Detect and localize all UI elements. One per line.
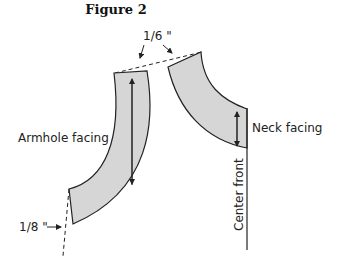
pattern-diagram: 1/6 " 1/8 " Armhole facing Neck facing C… (0, 0, 338, 280)
top-left-pointer-arrow (140, 45, 144, 58)
armhole-facing-piece (69, 71, 150, 224)
bottom-measure-label: 1/8 " (19, 220, 48, 234)
top-right-pointer-arrow (163, 45, 172, 53)
neck-facing-label: Neck facing (252, 121, 322, 135)
armhole-facing-label: Armhole facing (18, 131, 109, 145)
top-measure-label: 1/6 " (143, 29, 172, 43)
neck-facing-piece (168, 52, 247, 148)
center-front-label: Center front (232, 158, 246, 231)
bottom-dashed-line (63, 189, 69, 256)
